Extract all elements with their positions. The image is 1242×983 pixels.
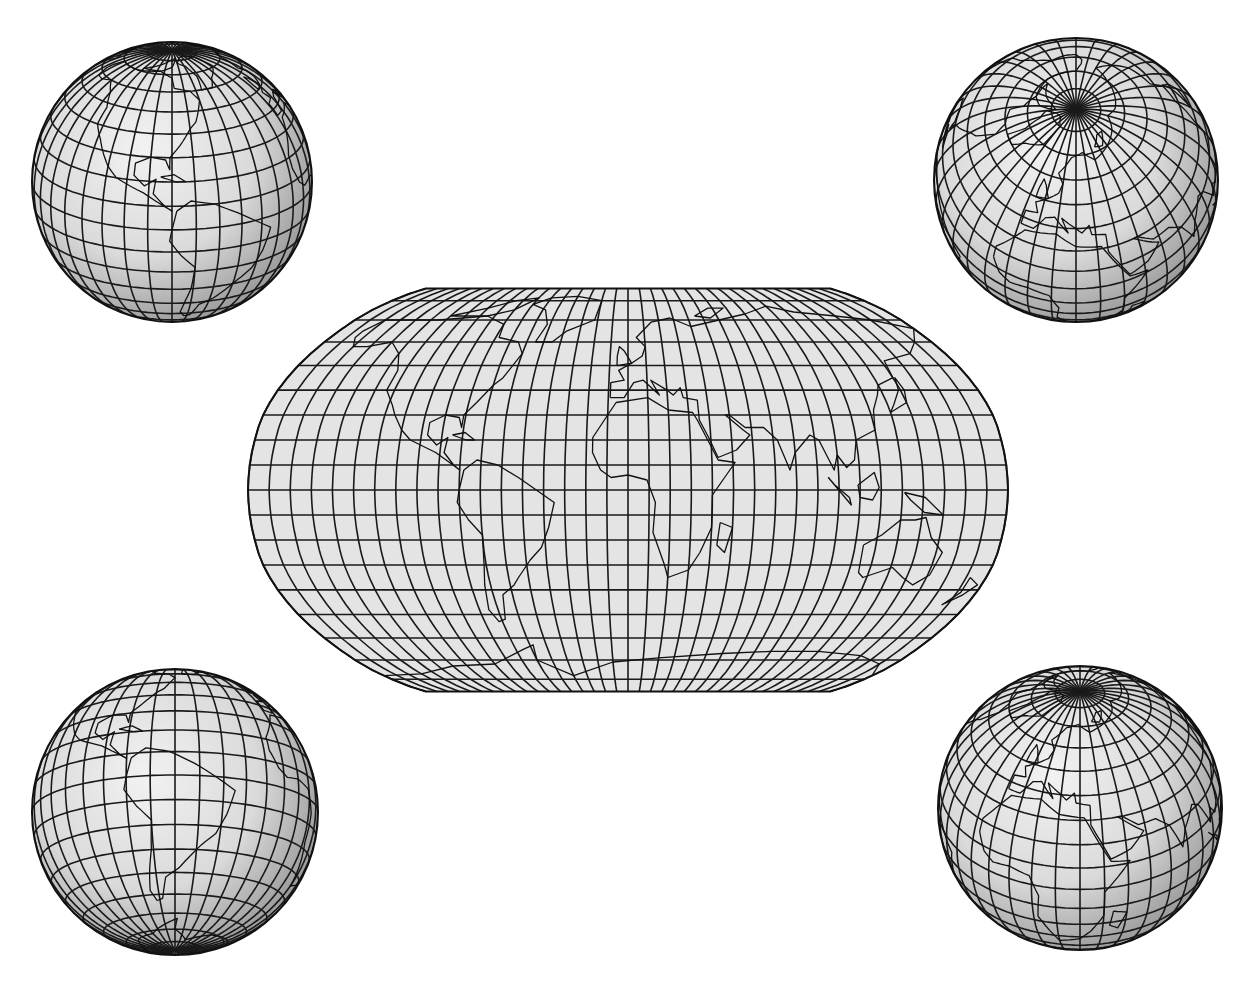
- projection-figure: [0, 0, 1242, 983]
- globe-americas-north: [32, 42, 312, 322]
- robinson-world-map: [248, 289, 1008, 692]
- globe-americas-south: [32, 669, 318, 955]
- globe-arctic: [934, 38, 1218, 322]
- globe-eurasia-africa: [938, 666, 1222, 950]
